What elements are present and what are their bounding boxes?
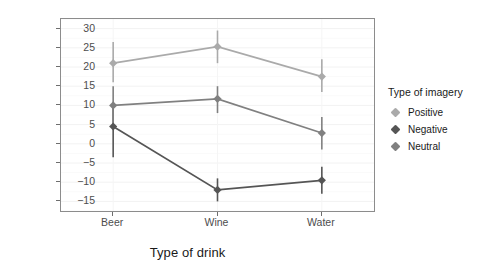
x-tick-mark	[321, 212, 322, 216]
x-tick-label-wine: Wine	[187, 216, 247, 228]
data-point	[213, 43, 221, 51]
y-tick-mark	[56, 200, 60, 201]
data-point	[318, 73, 326, 81]
y-tick-label: −15	[55, 194, 95, 206]
x-tick-label-beer: Beer	[82, 216, 142, 228]
data-point	[318, 129, 326, 137]
diamond-icon	[391, 125, 401, 135]
y-tick-label: 0	[55, 137, 95, 149]
legend-item-label: Neutral	[408, 141, 440, 152]
x-tick-mark	[112, 212, 113, 216]
legend-title: Type of imagery	[388, 86, 478, 98]
diamond-icon	[391, 142, 401, 152]
y-tick-label: 25	[55, 41, 95, 53]
y-tick-label: −10	[55, 175, 95, 187]
y-tick-label: 10	[55, 98, 95, 110]
y-tick-mark	[56, 124, 60, 125]
x-axis-title: Type of drink	[0, 245, 375, 260]
legend-item-label: Negative	[408, 124, 447, 135]
y-tick-mark	[56, 85, 60, 86]
plot-area	[61, 19, 374, 211]
legend-item-negative[interactable]: Negative	[388, 122, 478, 137]
y-tick-mark	[56, 181, 60, 182]
y-tick-label: 5	[55, 118, 95, 130]
x-tick-mark	[217, 212, 218, 216]
diamond-icon	[391, 108, 401, 118]
y-tick-mark	[56, 47, 60, 48]
y-tick-label: 30	[55, 22, 95, 34]
legend-item-label: Positive	[408, 107, 443, 118]
legend-diamond-icon	[388, 139, 403, 154]
data-point	[109, 122, 117, 130]
y-tick-mark	[56, 162, 60, 163]
legend: Type of imagery PositiveNegativeNeutral	[388, 86, 478, 156]
y-tick-mark	[56, 28, 60, 29]
legend-diamond-icon	[388, 122, 403, 137]
chart-figure: Mean attitude rating 302520151050−5−10−1…	[0, 0, 480, 266]
legend-diamond-icon	[388, 105, 403, 120]
data-point	[109, 59, 117, 67]
legend-item-neutral[interactable]: Neutral	[388, 139, 478, 154]
y-tick-label: 15	[55, 79, 95, 91]
data-point	[109, 101, 117, 109]
y-tick-mark	[56, 66, 60, 67]
y-tick-label: 20	[55, 60, 95, 72]
y-tick-label: −5	[55, 156, 95, 168]
x-tick-label-water: Water	[291, 216, 351, 228]
legend-item-positive[interactable]: Positive	[388, 105, 478, 120]
y-tick-mark	[56, 143, 60, 144]
y-tick-mark	[56, 104, 60, 105]
data-point	[318, 176, 326, 184]
legend-items: PositiveNegativeNeutral	[388, 105, 478, 154]
plot-panel	[60, 18, 375, 212]
data-point	[213, 186, 221, 194]
